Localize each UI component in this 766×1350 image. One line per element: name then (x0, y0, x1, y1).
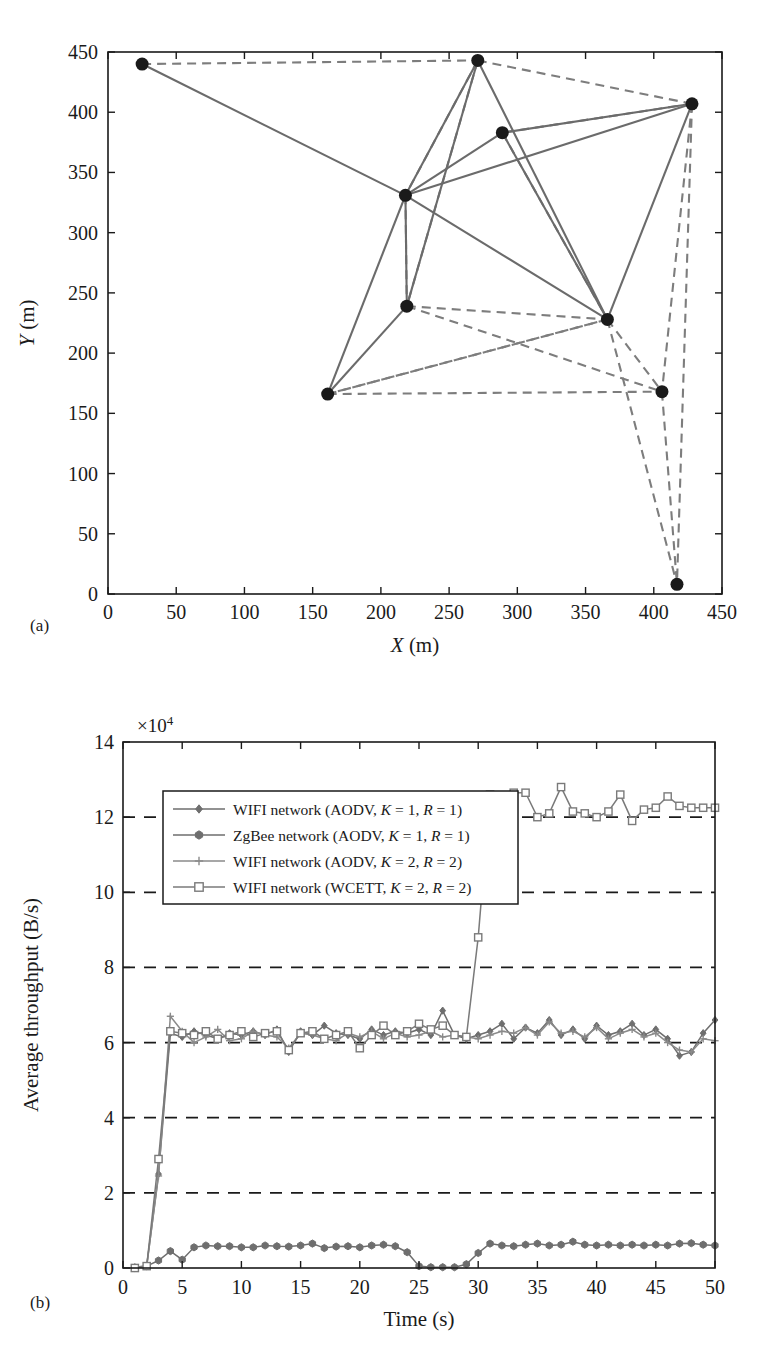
marker-hexagon (676, 1240, 682, 1247)
marker-hexagon (155, 1257, 161, 1264)
marker-hexagon (357, 1244, 363, 1251)
marker-square (581, 810, 588, 817)
legend-label: WIFI network (AODV, K = 2, R = 2) (233, 853, 462, 871)
y-tick-label: 300 (68, 222, 98, 244)
marker-square (261, 1030, 268, 1037)
marker-square (640, 806, 647, 813)
subfigure-label-a: (a) (30, 616, 49, 636)
marker-hexagon (191, 1244, 197, 1251)
marker-square (202, 1028, 209, 1035)
x-tick-label: 100 (229, 601, 259, 623)
chart-legend[interactable]: WIFI network (AODV, K = 1, R = 1)ZgBee n… (163, 791, 518, 904)
x-tick-label: 150 (298, 601, 328, 623)
marker-hexagon (629, 1241, 635, 1248)
x-axis-title: Time (s) (384, 1307, 455, 1331)
topology-node[interactable] (685, 97, 698, 110)
marker-square (297, 1030, 304, 1037)
marker-square (664, 793, 671, 800)
topology-edge-dashed (662, 104, 692, 392)
y-axis-multiplier: ×104 (137, 713, 174, 736)
topology-node[interactable] (655, 385, 668, 398)
topology-node[interactable] (399, 189, 412, 202)
topology-edge-solid (407, 60, 478, 306)
y-tick-label: 200 (68, 342, 98, 364)
marker-square (226, 1031, 233, 1038)
x-tick-label: 35 (527, 1276, 547, 1298)
topology-node[interactable] (321, 388, 334, 401)
marker-hexagon (226, 1243, 232, 1250)
topology-node[interactable] (601, 313, 614, 326)
topology-edge-dashed (407, 306, 608, 319)
marker-square (652, 804, 659, 811)
marker-hexagon (369, 1242, 375, 1249)
marker-hexagon (238, 1244, 244, 1251)
marker-square (333, 1031, 340, 1038)
marker-square (190, 1031, 197, 1038)
marker-hexagon (333, 1243, 339, 1250)
x-tick-label: 45 (646, 1276, 666, 1298)
marker-hexagon (594, 1242, 600, 1249)
topology-edge-dashed (142, 60, 478, 64)
marker-hexagon (546, 1242, 552, 1249)
y-tick-label: 10 (94, 881, 114, 903)
subfigure-label-b: (b) (30, 1293, 50, 1313)
marker-square (368, 1031, 375, 1038)
series-line (135, 1016, 715, 1267)
marker-square (688, 804, 695, 811)
topology-node[interactable] (496, 126, 509, 139)
marker-hexagon (298, 1242, 304, 1249)
x-tick-label: 15 (291, 1276, 311, 1298)
topology-edge-dashed (607, 319, 662, 391)
topology-node[interactable] (670, 578, 683, 591)
marker-hexagon (511, 1243, 517, 1250)
x-tick-label: 250 (434, 601, 464, 623)
y-tick-label: 8 (104, 956, 114, 978)
topology-node[interactable] (136, 58, 149, 71)
x-axis-title: X (m) (390, 633, 439, 657)
x-tick-label: 5 (177, 1276, 187, 1298)
topology-edge-solid (328, 195, 406, 394)
y-tick-label: 2 (104, 1182, 114, 1204)
marker-hexagon (605, 1241, 611, 1248)
marker-hexagon (286, 1243, 292, 1250)
y-axis-title: Average throughput (B/s) (19, 898, 43, 1112)
network-topology-chart: 0501001502002503003504004500501001502002… (0, 0, 766, 660)
y-tick-label: 450 (68, 41, 98, 63)
x-tick-label: 400 (639, 601, 669, 623)
figure-panel-b: 0510152025303540455002468101214×104Time … (0, 660, 766, 1350)
marker-hexagon (392, 1243, 398, 1250)
x-tick-label: 25 (409, 1276, 429, 1298)
y-tick-label: 4 (104, 1107, 114, 1129)
marker-square (309, 1028, 316, 1035)
marker-hexagon (582, 1241, 588, 1248)
marker-square (321, 1035, 328, 1042)
series-line (135, 1242, 715, 1268)
marker-hexagon (440, 1264, 446, 1271)
y-tick-label: 150 (68, 402, 98, 424)
marker-hexagon (653, 1241, 659, 1248)
marker-square (629, 817, 636, 824)
marker-square (451, 1031, 458, 1038)
topology-node[interactable] (400, 300, 413, 313)
marker-hexagon (428, 1264, 434, 1271)
marker-square (273, 1028, 280, 1035)
topology-edge-dashed (478, 60, 692, 103)
x-tick-label: 50 (705, 1276, 725, 1298)
topology-edge-solid (502, 133, 607, 320)
marker-square (546, 810, 553, 817)
x-tick-label: 200 (366, 601, 396, 623)
marker-square (534, 814, 541, 821)
marker-square (344, 1028, 351, 1035)
marker-square (700, 804, 707, 811)
marker-square (250, 1033, 257, 1040)
marker-hexagon (345, 1243, 351, 1250)
marker-hexagon (250, 1244, 256, 1251)
y-tick-label: 0 (88, 583, 98, 605)
topology-node[interactable] (471, 54, 484, 67)
legend-label: ZgBee network (AODV, K = 1, R = 1) (233, 827, 470, 845)
topology-edge-solid (502, 104, 692, 133)
marker-square (238, 1028, 245, 1035)
topology-edge-solid (328, 306, 407, 394)
marker-square (195, 883, 203, 891)
marker-hexagon (321, 1245, 327, 1252)
